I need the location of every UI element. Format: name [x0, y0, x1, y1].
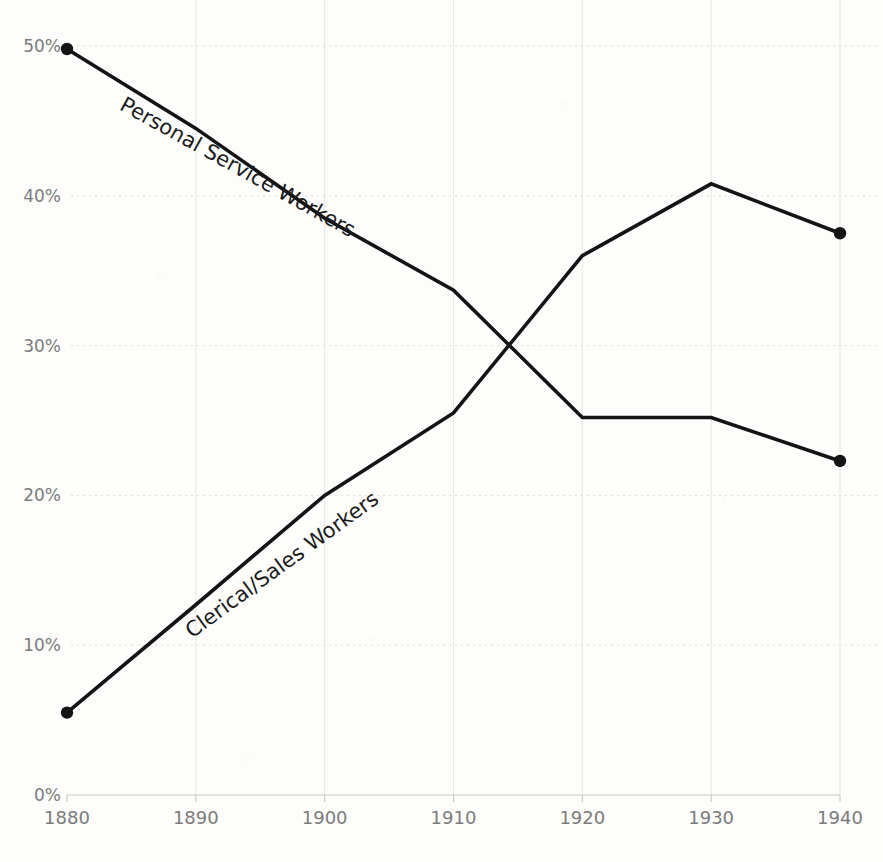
y-tick-label-40%: 40% [23, 186, 61, 206]
x-tick-label-1890: 1890 [173, 807, 219, 828]
series-label-2: Clerical/Sales Workers [181, 487, 383, 643]
y-tick-label-50%: 50% [23, 36, 61, 56]
x-tick-label-1910: 1910 [431, 807, 477, 828]
line-chart-plot: 0%10%20%30%40%50% 1880189019001910192019… [0, 0, 883, 862]
series-2-start-marker [61, 706, 73, 718]
series-1-end-marker [834, 455, 846, 467]
x-tick-label-1900: 1900 [302, 807, 348, 828]
x-tick-label-1940: 1940 [817, 807, 863, 828]
x-tick-label-1920: 1920 [559, 807, 605, 828]
vertical-gridlines [196, 0, 840, 795]
series-1-start-marker [61, 43, 73, 55]
y-tick-label-20%: 20% [23, 485, 61, 505]
series-label-1: Personal Service Workers [116, 92, 360, 242]
y-tick-label-0%: 0% [34, 785, 61, 805]
tick-marks [67, 795, 840, 802]
x-axis-tick-labels: 1880189019001910192019301940 [44, 807, 863, 828]
y-tick-label-30%: 30% [23, 336, 61, 356]
x-tick-label-1880: 1880 [44, 807, 90, 828]
chart-container: 0%10%20%30%40%50% 1880189019001910192019… [0, 0, 883, 862]
x-tick-label-1930: 1930 [688, 807, 734, 828]
y-axis-tick-labels: 0%10%20%30%40%50% [23, 36, 61, 805]
y-tick-label-10%: 10% [23, 635, 61, 655]
series-2-end-marker [834, 227, 846, 239]
